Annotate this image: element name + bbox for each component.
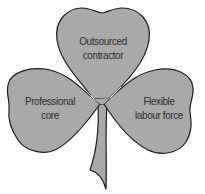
leaf-label-line: Outsourced [66,34,140,48]
leaf-label-line: Flexible [122,94,196,108]
leaf-label-outsourced-contractor: Outsourced contractor [66,34,140,62]
leaf-label-line: core [12,108,88,122]
shamrock-diagram: Outsourced contractor Professional core … [0,0,205,194]
leaf-label-line: Professional [12,94,88,108]
leaf-label-professional-core: Professional core [12,94,88,122]
leaf-label-line: labour force [122,108,196,122]
leaf-label-flexible-labour-force: Flexible labour force [122,94,196,122]
shamrock-stem [90,104,107,189]
leaf-label-line: contractor [66,48,140,62]
